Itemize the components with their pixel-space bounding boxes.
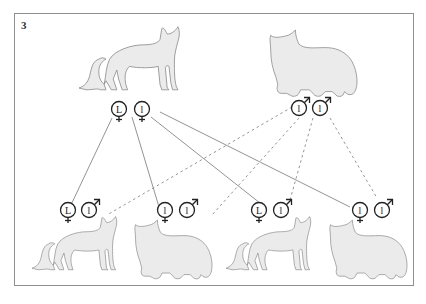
svg-text:l: l: [280, 205, 283, 216]
svg-text:L: L: [65, 205, 71, 216]
svg-text:l: l: [88, 205, 91, 216]
svg-text:l: l: [186, 205, 189, 216]
svg-text:l: l: [319, 103, 322, 114]
svg-text:L: L: [116, 104, 122, 115]
svg-text:L: L: [256, 205, 262, 216]
svg-text:l: l: [298, 103, 301, 114]
panel-label: 3: [21, 19, 27, 31]
svg-text:l: l: [381, 205, 384, 216]
svg-text:l: l: [141, 104, 144, 115]
svg-text:l: l: [359, 205, 362, 216]
inheritance-diagram: 3 L l l l L: [0, 0, 426, 304]
svg-text:l: l: [164, 205, 167, 216]
